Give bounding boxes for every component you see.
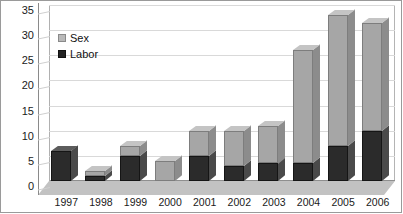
bar-front-face [189,131,209,156]
bar-front-face [85,176,105,181]
bar-front-face [328,146,348,181]
bar-segment-sex-1998 [85,171,105,176]
bar-front-face [258,163,278,181]
bar-column-2006 [362,0,382,214]
bar-front-face [362,23,382,131]
bar-column-2005 [328,0,348,214]
bar-segment-labor-2004 [293,163,313,181]
x-axis-tick-labels: 1997199819992000200120022003200420052006 [0,196,403,212]
bar-front-face [293,163,313,181]
bar-segment-sex-2004 [293,50,313,163]
bar-segment-sex-2006 [362,23,382,131]
bar-column-2000 [155,0,175,214]
bar-side-face [278,120,285,164]
bar-side-face [382,125,389,181]
bar-front-face [120,156,140,181]
bar-segment-labor-2005 [328,146,348,181]
bar-column-2003 [258,0,278,214]
bar-side-face [382,17,389,131]
bar-front-face [155,161,175,181]
bar-segment-sex-2002 [224,131,244,166]
x-axis-tick-label: 2006 [358,196,398,208]
bar-column-2002 [224,0,244,214]
bar-front-face [224,166,244,181]
bar-front-face [362,131,382,181]
bar-segment-labor-2002 [224,166,244,181]
bar-segment-labor-1997 [51,151,71,181]
bar-side-face [348,9,355,146]
legend-item-labor: Labor [58,47,98,61]
bar-segment-sex-2005 [328,15,348,146]
legend-label-sex: Sex [70,32,89,44]
bar-segment-labor-2001 [189,156,209,181]
bar-front-face [85,171,105,176]
bar-column-1999 [120,0,140,214]
bar-side-face [244,125,251,166]
bar-segment-sex-2001 [189,131,209,156]
bar-front-face [189,156,209,181]
bar-segment-labor-1998 [85,176,105,181]
bar-segment-sex-2000 [155,161,175,181]
bar-front-face [328,15,348,146]
bar-front-face [224,131,244,166]
bar-front-face [120,146,140,156]
chart-container: 05101520253035 1997199819992000200120022… [0,0,403,214]
bar-segment-labor-2003 [258,163,278,181]
legend-label-labor: Labor [70,48,98,60]
bar-segment-sex-2003 [258,126,278,164]
legend-swatch-sex [58,34,66,42]
bar-segment-labor-1999 [120,156,140,181]
legend-swatch-labor [58,50,66,58]
bar-front-face [293,50,313,163]
bar-front-face [258,126,278,164]
bar-column-2004 [293,0,313,214]
bar-front-face [51,151,71,181]
bar-side-face [348,140,355,181]
chart-legend: Sex Labor [58,31,98,63]
bar-segment-sex-1999 [120,146,140,156]
bar-column-2001 [189,0,209,214]
legend-item-sex: Sex [58,31,98,45]
bar-side-face [313,44,320,163]
bar-segment-labor-2006 [362,131,382,181]
